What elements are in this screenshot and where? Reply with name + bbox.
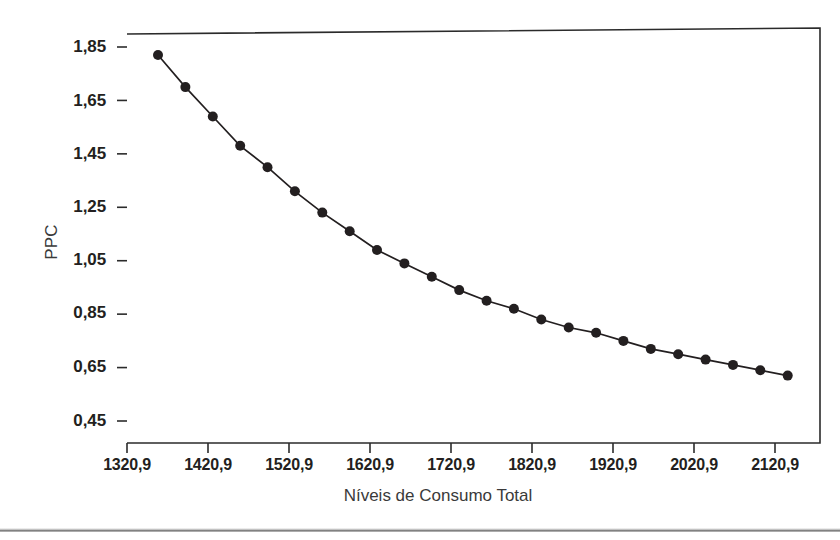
data-point [235,141,245,151]
data-point [263,162,273,172]
data-point [673,349,683,359]
data-point [618,336,628,346]
data-point [317,208,327,218]
data-point [509,304,519,314]
data-point [783,371,793,381]
data-point [454,285,464,295]
data-point [482,296,492,306]
series-line [158,55,788,376]
axis-frame [127,28,820,443]
data-point [728,360,738,370]
chart-figure: PPC 1,85 1,65 1,45 1,25 1,05 0,85 0,65 0… [0,0,840,540]
y-axis-ticks [117,47,127,421]
data-point [153,50,163,60]
data-point [372,245,382,255]
data-point [399,258,409,268]
footer-divider [0,528,840,532]
data-point [564,323,574,333]
data-point [701,355,711,365]
data-point [591,328,601,338]
data-point [755,365,765,375]
data-point [536,315,546,325]
data-point [208,112,218,122]
x-tick-label: 2120,9 [720,456,830,474]
data-point [290,186,300,196]
data-point [427,272,437,282]
data-point [180,82,190,92]
series-markers [153,50,793,381]
data-point [345,226,355,236]
x-axis-ticks [127,443,775,453]
data-point [646,344,656,354]
x-axis-title: Níveis de Consumo Total [0,486,840,506]
